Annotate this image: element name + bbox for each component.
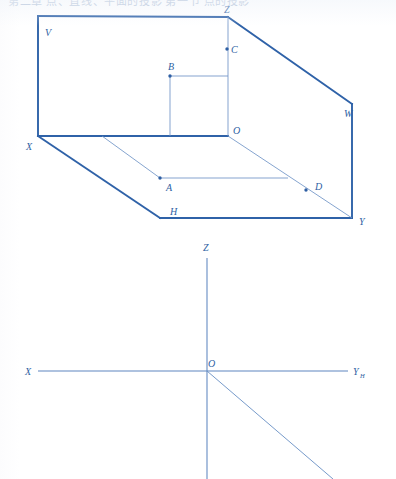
point-b-dot (168, 74, 171, 77)
axis-label-x-bottom: X (24, 366, 32, 377)
axis-label-y-bottom: Y (353, 366, 360, 377)
axis-yw-diagonal-line (207, 371, 333, 479)
line-a-to-ox (102, 136, 160, 178)
point-label-a: A (165, 182, 173, 193)
unfolded-axes-lines (38, 258, 348, 479)
edge-v-plane-top (38, 16, 228, 17)
origin-label-o-bottom: O (208, 358, 215, 369)
point-label-d: D (314, 181, 323, 192)
vertex-label-y: Y (359, 216, 366, 227)
vertex-label-x: X (25, 141, 33, 152)
geometry-figure: V H W X Z O Y A B C D X (0, 0, 396, 479)
point-c-dot (225, 47, 228, 50)
figure-top-group: V H W X Z O Y A B C D (25, 4, 366, 227)
projection-box-outline (38, 16, 352, 218)
point-label-b: B (168, 61, 174, 72)
plane-label-v: V (45, 27, 53, 38)
figure-bottom-group: X Z Y H O (24, 242, 365, 479)
point-d-dot (304, 188, 307, 191)
edge-z-to-w (228, 17, 352, 104)
axis-oy (228, 136, 352, 218)
point-a-dot (158, 176, 161, 179)
vertex-label-o: O (233, 125, 240, 136)
plane-label-h: H (169, 206, 178, 217)
point-label-c: C (231, 44, 238, 55)
unfolded-axes-diagonal (207, 371, 333, 479)
edge-h-front-to-x (38, 136, 160, 218)
axis-label-z-bottom: Z (203, 242, 209, 253)
axis-label-y-subscript-bottom: H (359, 372, 365, 379)
figure-page: 第二章 点、直线、平面的投影 第一节 点的投影 (0, 0, 396, 479)
projection-box-points (158, 47, 307, 191)
vertex-label-z: Z (224, 4, 230, 15)
